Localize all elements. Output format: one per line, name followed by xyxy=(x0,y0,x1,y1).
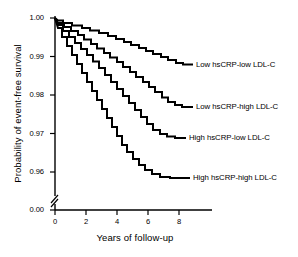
curve-high-hscrp-low-ldl xyxy=(55,18,186,138)
x-axis-ticks xyxy=(55,210,179,215)
xtick-label-8: 8 xyxy=(171,217,187,226)
y-axis-title: Probability of event-free survival xyxy=(12,19,23,209)
xtick-label-0: 0 xyxy=(47,217,63,226)
curve-label-high-hscrp-high-ldl: High hsCRP-high LDL-C xyxy=(193,173,277,182)
curve-label-low-hscrp-low-ldl: Low hsCRP-low LDL-C xyxy=(196,60,275,69)
xtick-label-4: 4 xyxy=(109,217,125,226)
curve-label-high-hscrp-low-ldl: High hsCRP-low LDL-C xyxy=(189,133,270,142)
survival-curve-figure: 1.00 0.99 0.98 0.97 0.96 0.00 0 2 4 6 8 … xyxy=(0,0,298,257)
x-axis-title: Years of follow-up xyxy=(55,232,215,243)
xtick-label-6: 6 xyxy=(140,217,156,226)
y-axis-ticks xyxy=(50,18,55,210)
xtick-label-2: 2 xyxy=(78,217,94,226)
curve-label-low-hscrp-high-ldl: Low hsCRP-high LDL-C xyxy=(196,102,278,111)
